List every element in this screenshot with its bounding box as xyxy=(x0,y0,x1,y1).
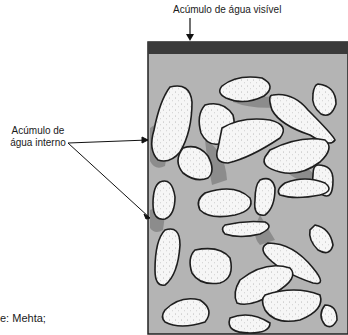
concrete-section-diagram xyxy=(0,0,348,335)
top-arrow-icon xyxy=(186,18,194,41)
aggregate xyxy=(190,249,231,284)
aggregate xyxy=(321,305,337,327)
aggregate xyxy=(153,181,175,219)
internal-water-arrows xyxy=(68,137,150,219)
arrow-head-icon xyxy=(142,137,148,143)
surface-water-layer xyxy=(148,42,348,54)
aggregate xyxy=(198,189,251,217)
